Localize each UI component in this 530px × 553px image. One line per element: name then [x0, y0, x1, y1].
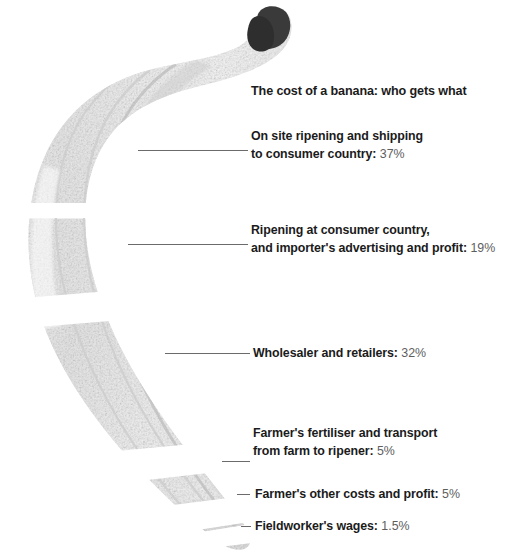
callout-value: 37%: [380, 147, 405, 161]
callout-ripening-consumer-country: Ripening at consumer country, and import…: [251, 222, 495, 257]
callout-label-text: Fieldworker's wages:: [255, 519, 378, 533]
callout-label-line2: and importer's advertising and profit: 1…: [251, 240, 495, 258]
callout-label-line2: from farm to ripener: 5%: [253, 443, 437, 461]
callout-label-line1: Farmer's fertiliser and transport: [253, 425, 437, 443]
page-title: The cost of a banana: who gets what: [251, 84, 467, 98]
callout-label-text: to consumer country:: [251, 147, 376, 161]
callout-value: 19%: [470, 241, 495, 255]
callout-value: 1.5%: [381, 519, 409, 533]
callout-value: 5%: [377, 444, 395, 458]
callout-label-line2: Fieldworker's wages: 1.5%: [255, 518, 410, 536]
callout-label-text: from farm to ripener:: [253, 444, 373, 458]
callout-label-text: and importer's advertising and profit:: [251, 241, 467, 255]
callout-farmer-other-costs: Farmer's other costs and profit: 5%: [255, 486, 460, 504]
callout-label-line2: Farmer's other costs and profit: 5%: [255, 486, 460, 504]
callout-labels: The cost of a banana: who gets what On s…: [0, 0, 530, 553]
callout-label-line2: Wholesaler and retailers: 32%: [253, 345, 426, 363]
callout-on-site-ripening: On site ripening and shipping to consume…: [251, 128, 423, 163]
callout-label-line1: Ripening at consumer country,: [251, 222, 495, 240]
callout-wholesaler-retailers: Wholesaler and retailers: 32%: [253, 345, 426, 363]
callout-value: 32%: [401, 346, 426, 360]
callout-label-line1: On site ripening and shipping: [251, 128, 423, 146]
callout-value: 5%: [442, 487, 460, 501]
banana-cost-infographic: The cost of a banana: who gets what On s…: [0, 0, 530, 553]
callout-fieldworker-wages: Fieldworker's wages: 1.5%: [255, 518, 410, 536]
callout-farmer-fertiliser-transport: Farmer's fertiliser and transport from f…: [253, 425, 437, 460]
callout-label-text: Wholesaler and retailers:: [253, 346, 398, 360]
callout-label-text: Farmer's other costs and profit:: [255, 487, 439, 501]
callout-label-line2: to consumer country: 37%: [251, 146, 423, 164]
